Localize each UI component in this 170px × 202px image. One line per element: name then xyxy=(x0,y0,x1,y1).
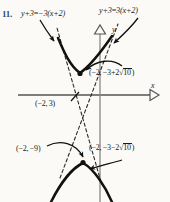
pointer-point-lower-left-label xyxy=(47,143,83,157)
pointer-eq-right-to-asymptote xyxy=(114,18,138,43)
eq-left-lhs: y+3 xyxy=(21,9,34,18)
graph-canvas xyxy=(0,0,170,202)
eq-right-rhs: 3(x+2) xyxy=(116,6,138,15)
hyperbola-lower-branch xyxy=(51,163,112,202)
vertex-upper-close: ) xyxy=(132,68,134,77)
eq-left-rhs: −3(x+2) xyxy=(38,9,65,18)
vertex-dot-lower xyxy=(80,160,85,165)
asymptotes-group xyxy=(57,24,118,182)
vertex-dot-upper xyxy=(77,71,82,76)
x-axis-arrow-icon xyxy=(150,90,159,101)
vertex-lower-close: ) xyxy=(132,143,134,152)
y-axis-arrow-icon xyxy=(95,25,106,34)
vertex-lower-radicand: 10 xyxy=(123,143,132,152)
pointer-point-upper-left-tick xyxy=(71,92,79,101)
vertex-upper-open: (−2, −3+2 xyxy=(89,68,119,77)
asymptote-positive-slope xyxy=(60,24,118,178)
conic-graph-figure: 11. y+3=−3(x+2) y+3=3(x+2) y x (−2, −3+2… xyxy=(0,0,170,202)
point-lower-left-label: (−2, −9) xyxy=(16,145,40,153)
y-axis-label: y xyxy=(112,26,115,34)
point-upper-left-label: (−2, 3) xyxy=(35,100,55,108)
vertex-lower-open: (−2, −3−2 xyxy=(89,143,119,152)
asymptote-equation-left-label: y+3=−3(x+2) xyxy=(21,10,65,18)
problem-number: 11. xyxy=(2,9,12,19)
asymptote-equation-right-label: y+3=3(x+2) xyxy=(99,7,138,15)
pointer-vertex-lower-label xyxy=(90,160,122,169)
axes-group xyxy=(18,34,150,202)
eq-right-lhs: y+3 xyxy=(99,6,112,15)
vertex-upper-label: (−2, −3+2√10) xyxy=(89,68,134,77)
vertex-lower-label: (−2, −3−2√10) xyxy=(89,143,134,152)
pointer-eq-left-to-asymptote xyxy=(40,20,54,41)
vertex-upper-radicand: 10 xyxy=(123,68,132,77)
x-axis-label: x xyxy=(151,82,154,90)
